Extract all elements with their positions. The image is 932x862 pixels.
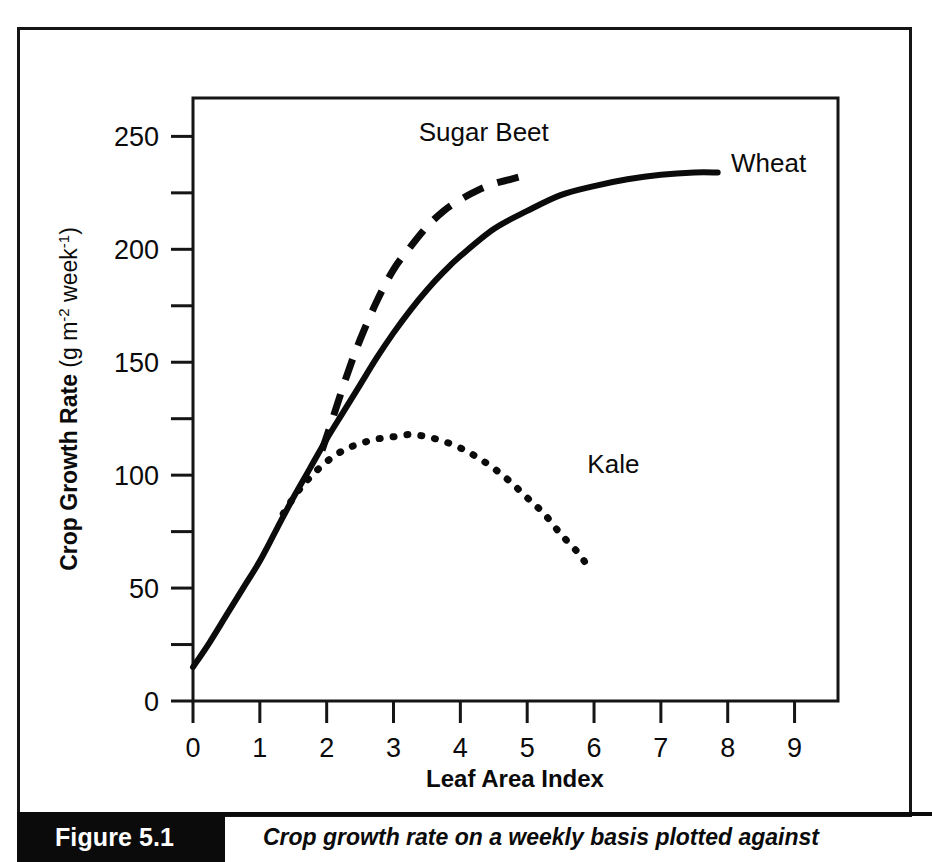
chart-canvas: 050100150200250 0123456789 WheatSugar Be… bbox=[17, 27, 912, 817]
y-axis-tick-labels: 050100150200250 bbox=[114, 122, 159, 717]
y-axis-tick-label: 0 bbox=[144, 687, 159, 717]
series-label-wheat: Wheat bbox=[731, 148, 807, 178]
series-line-wheat bbox=[193, 172, 718, 667]
y-axis-tick-label: 200 bbox=[114, 235, 159, 265]
y-axis-title-group: Crop Growth Rate (g m-2 week-1) bbox=[55, 227, 83, 571]
x-axis-ticks bbox=[193, 701, 795, 723]
x-axis-tick-label: 8 bbox=[720, 733, 735, 763]
x-axis-tick-label: 5 bbox=[520, 733, 535, 763]
series-label-kale: Kale bbox=[587, 449, 639, 479]
x-axis-tick-label: 3 bbox=[386, 733, 401, 763]
y-axis-title: Crop Growth Rate (g m-2 week-1) bbox=[55, 227, 83, 571]
x-axis-tick-label: 6 bbox=[587, 733, 602, 763]
plot-frame bbox=[193, 98, 838, 701]
x-axis-tick-label: 4 bbox=[453, 733, 468, 763]
series-label-sugar-beet: Sugar Beet bbox=[419, 117, 550, 147]
y-axis-ticks bbox=[171, 136, 193, 701]
y-axis-tick-label: 250 bbox=[114, 122, 159, 152]
crop-growth-rate-chart: 050100150200250 0123456789 WheatSugar Be… bbox=[17, 27, 912, 817]
y-axis-tick-label: 50 bbox=[129, 574, 159, 604]
series-annotations: WheatSugar BeetKale bbox=[419, 117, 807, 479]
x-axis-tick-label: 1 bbox=[252, 733, 267, 763]
figure-caption-row: Figure 5.1 Crop growth rate on a weekly … bbox=[17, 812, 932, 862]
y-axis-tick-label: 150 bbox=[114, 348, 159, 378]
x-axis-tick-labels: 0123456789 bbox=[185, 733, 802, 763]
figure-caption-text: Crop growth rate on a weekly basis plott… bbox=[225, 812, 932, 862]
x-axis-tick-label: 2 bbox=[319, 733, 334, 763]
y-axis-tick-label: 100 bbox=[114, 461, 159, 491]
series-line-kale bbox=[283, 435, 587, 566]
x-axis-tick-label: 9 bbox=[787, 733, 802, 763]
x-axis-title: Leaf Area Index bbox=[426, 765, 604, 792]
x-axis-tick-label: 0 bbox=[185, 733, 200, 763]
figure-page: 050100150200250 0123456789 WheatSugar Be… bbox=[0, 0, 932, 862]
series-line-sugar-beet bbox=[322, 175, 527, 451]
x-axis-tick-label: 7 bbox=[653, 733, 668, 763]
figure-number-badge: Figure 5.1 bbox=[17, 812, 225, 862]
